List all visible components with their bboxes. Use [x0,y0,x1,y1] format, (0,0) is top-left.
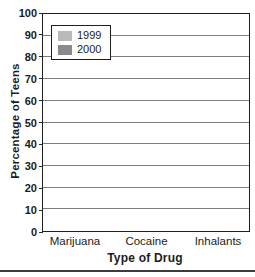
legend-label: 1999 [77,30,101,41]
legend-row-1999: 1999 [58,30,101,41]
legend: 19992000 [51,25,111,60]
x-slot: Cocaine [122,235,172,247]
bar-chart: Percentage of Teens 01020304050607080901… [0,0,255,277]
y-tick-label: 70 [0,73,37,85]
legend-row-2000: 2000 [58,44,101,55]
legend-swatch-2000 [58,45,72,55]
y-tick-label: 10 [0,204,37,216]
y-tick-label: 90 [0,29,37,41]
legend-label: 2000 [77,44,101,55]
y-tick-label: 60 [0,95,37,107]
x-slot: Inhalants [193,235,243,247]
x-category-label: Marijuana [50,235,101,247]
plot-area: 19992000 [42,13,250,232]
y-tick-label: 0 [0,226,37,238]
y-tick-label: 30 [0,160,37,172]
y-tick-label: 20 [0,182,37,194]
y-tick-label: 80 [0,51,37,63]
x-axis-category-labels: MarijuanaCocaineInhalants [42,235,248,247]
y-axis-tick-labels: 0102030405060708090100 [0,13,37,232]
x-axis-title: Type of Drug [42,251,248,265]
bottom-rule [0,270,255,272]
y-tick-label: 40 [0,138,37,150]
x-slot: Marijuana [50,235,100,247]
legend-swatch-1999 [58,31,72,41]
y-tick-label: 50 [0,117,37,129]
y-tick-label: 100 [0,7,37,19]
x-category-label: Cocaine [125,235,167,247]
x-category-label: Inhalants [195,235,242,247]
